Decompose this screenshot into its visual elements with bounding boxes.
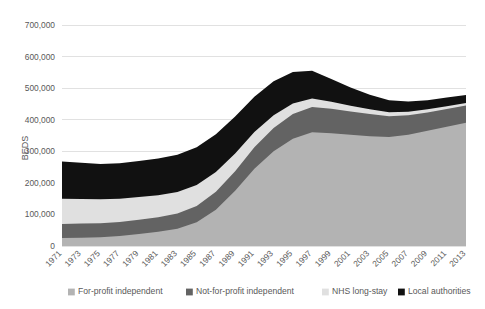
x-axis-tick-label: 1977: [101, 248, 121, 268]
x-axis-tick-label: 1985: [178, 248, 198, 268]
y-axis-tick-labels: 0100,000200,000300,000400,000500,000600,…: [25, 20, 56, 251]
x-axis-tick-label: 2001: [332, 248, 352, 268]
x-axis-tick-label: 1999: [312, 248, 332, 268]
chart-legend: For-profit independentNot-for-profit ind…: [68, 286, 471, 296]
x-axis-tick-label: 1987: [197, 248, 217, 268]
legend-swatch: [186, 289, 193, 296]
x-axis-tick-label: 1993: [255, 248, 275, 268]
x-axis-tick-label: 1995: [274, 248, 294, 268]
x-axis-tick-label: 1981: [139, 248, 159, 268]
legend-item-label: Local authorities: [408, 286, 471, 296]
x-axis-tick-label: 2009: [409, 248, 429, 268]
legend-item-label: Not-for-profit independent: [196, 286, 295, 296]
y-axis-title: BEDS: [20, 136, 30, 161]
chart-container: 0100,000200,000300,000400,000500,000600,…: [0, 0, 485, 309]
x-axis-tick-label: 2011: [428, 248, 448, 268]
x-axis-tick-label: 1973: [62, 248, 82, 268]
y-axis-tick-label: 400,000: [25, 115, 56, 125]
x-axis-tick-label: 1989: [216, 248, 236, 268]
legend-item-label: NHS long-stay: [332, 286, 388, 296]
x-axis-tick-label: 1971: [43, 248, 63, 268]
x-axis-tick-label: 1979: [120, 248, 140, 268]
beds-stacked-area-chart: 0100,000200,000300,000400,000500,000600,…: [0, 0, 485, 309]
x-axis-tick-label: 1983: [159, 248, 179, 268]
x-axis-tick-label: 2007: [389, 248, 409, 268]
x-axis-tick-label: 1991: [236, 248, 256, 268]
legend-swatch: [68, 289, 75, 296]
x-axis-tick-label: 2013: [447, 248, 467, 268]
y-axis-tick-label: 500,000: [25, 83, 56, 93]
x-axis-tick-label: 1975: [82, 248, 102, 268]
x-axis-tick-label: 1997: [293, 248, 313, 268]
x-axis-tick-label: 2003: [351, 248, 371, 268]
y-axis-tick-label: 100,000: [25, 209, 56, 219]
y-axis-tick-label: 200,000: [25, 178, 56, 188]
x-axis-tick-labels: 1971197319751977197919811983198519871989…: [43, 248, 467, 268]
x-axis-tick-label: 2005: [370, 248, 390, 268]
legend-swatch: [322, 289, 329, 296]
y-axis-tick-label: 600,000: [25, 52, 56, 62]
plot-areas: [62, 71, 466, 246]
y-axis-tick-label: 700,000: [25, 20, 56, 30]
legend-swatch: [398, 289, 405, 296]
legend-item-label: For-profit independent: [78, 286, 163, 296]
